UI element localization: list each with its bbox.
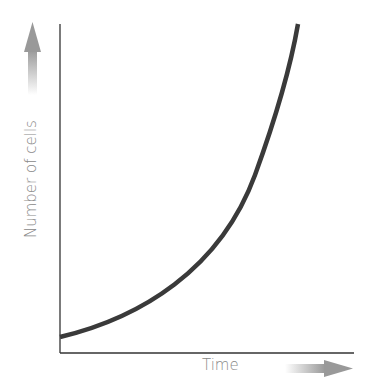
y-axis-label: Number of cells [22,120,40,238]
growth-chart [0,0,369,391]
y-axis-arrow-icon [24,22,41,95]
x-axis-label: Time [202,356,239,374]
x-axis-arrow-icon [285,360,353,377]
growth-curve [60,24,298,337]
